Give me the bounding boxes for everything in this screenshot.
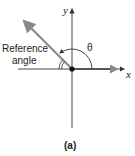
y-axis-label: y bbox=[62, 4, 68, 16]
figure-caption: (a) bbox=[64, 140, 76, 151]
angle-diagram: y x θ Reference angle (a) bbox=[0, 0, 135, 156]
theta-label: θ bbox=[87, 42, 93, 53]
reference-angle-label-line2: angle bbox=[12, 55, 37, 66]
origin-point bbox=[69, 66, 74, 71]
reference-angle-label-line1: Reference bbox=[2, 43, 49, 54]
x-axis-label: x bbox=[125, 68, 131, 80]
